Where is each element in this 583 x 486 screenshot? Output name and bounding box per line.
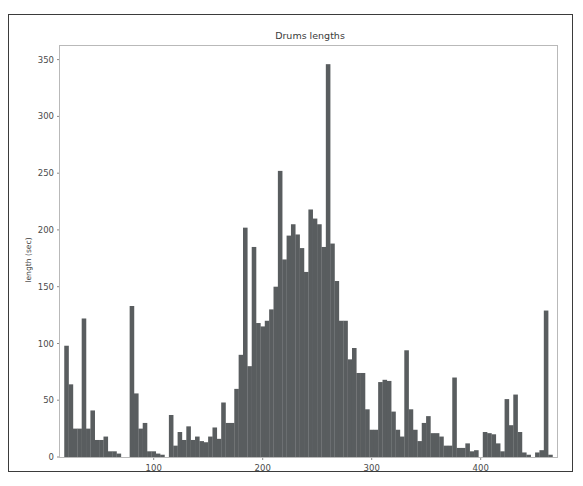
y-tick-label: 200 [38,225,54,235]
histogram-bar [295,234,300,457]
histogram-bar [143,423,148,457]
histogram-bar [147,451,152,457]
histogram-bar [252,247,257,457]
histogram-bar [308,209,313,457]
histogram-bar [117,454,122,457]
histogram-bar [226,423,231,457]
histogram-bar [69,384,74,457]
histogram-bar [291,224,296,457]
histogram-bar [112,451,117,457]
histogram-bar [208,437,213,457]
histogram-bar [317,224,322,457]
histogram-bar [186,426,191,457]
histogram-bar [95,440,100,457]
histogram-bar [151,451,156,457]
histogram-bar [234,389,239,457]
histogram-bar [256,323,261,457]
y-tick-label: 250 [38,168,54,178]
histogram-bar [444,446,449,457]
histogram-bar [86,429,91,457]
histogram-bar [191,440,196,457]
histogram-bar [138,429,143,457]
histogram-bar [483,432,488,457]
histogram-bar [103,437,108,457]
histogram-bar [457,448,462,457]
histogram-bar [173,446,178,457]
histogram-bar [492,434,497,457]
histogram-bar [230,423,235,457]
histogram-bar [404,350,409,457]
histogram-bar [400,437,405,457]
histogram-bar [452,378,457,457]
histogram-bar [182,440,187,457]
histogram-bar [413,430,418,457]
histogram-bar [313,219,318,457]
histogram-bar [396,430,401,457]
histogram-bar [470,451,475,457]
histogram-bar [130,306,135,457]
histogram-bar [217,439,222,457]
histogram-bar [169,415,174,457]
histogram-bar [178,432,183,457]
histogram-bar [448,446,453,457]
histogram-bar [348,359,353,457]
histogram-bar [134,393,139,457]
histogram-bar [300,248,305,457]
histogram-bar [243,228,248,457]
histogram-bar [64,346,69,457]
y-tick-label: 300 [38,111,54,121]
histogram-bar [108,451,113,457]
histogram-bar [287,236,292,457]
histogram-bar [500,451,505,457]
chart-title: Drums lengths [275,30,345,41]
histogram-bar [239,355,244,457]
histogram-bar [343,321,348,457]
histogram-bar [369,430,374,457]
histogram-bar [199,441,204,457]
histogram-bar [221,403,226,458]
histogram-bar [465,443,470,457]
x-tick-label: 300 [364,463,380,471]
histogram-bar [212,427,217,457]
histogram-bar [365,409,370,457]
histogram-bar [535,452,540,457]
histogram-bar [260,326,265,457]
histogram-bar [73,429,78,457]
histogram-bar [278,171,283,457]
histogram-bar [461,448,466,457]
histogram-bar [361,373,366,457]
drums-lengths-histogram: Drums lengths length (sec) 0501001502002… [9,15,572,471]
histogram-bar [518,432,523,457]
histogram-bar [426,416,431,457]
histogram-bar [430,433,435,457]
histogram-bar [247,366,252,457]
histogram-bar [326,64,331,457]
histogram-bar [544,311,549,457]
histogram-bar [195,437,200,457]
histogram-bar [391,412,396,457]
x-tick-label: 100 [146,463,162,471]
histogram-bar [335,281,340,457]
histogram-bar [439,437,444,457]
histogram-bar [539,450,544,457]
y-tick-label: 0 [49,452,54,462]
histogram-bar [383,380,388,457]
histogram-bar [435,433,440,457]
histogram-bar [422,423,427,457]
y-tick-label: 150 [38,282,54,292]
histogram-bar [330,244,335,457]
histogram-bar [387,381,392,457]
histogram-bar [496,443,501,457]
x-tick-label: 400 [473,463,489,471]
histogram-bar [99,440,104,457]
histogram-bar [90,410,95,457]
histogram-bar [487,433,492,457]
figure-card: Drums lengths length (sec) 0501001502002… [8,14,573,472]
histogram-bar [526,455,531,457]
y-axis-label: length (sec) [24,237,33,282]
y-tick-label: 100 [38,339,54,349]
histogram-bar [282,259,287,457]
histogram-bar [509,425,514,457]
histogram-bar [265,321,270,457]
histogram-bar [548,455,553,457]
